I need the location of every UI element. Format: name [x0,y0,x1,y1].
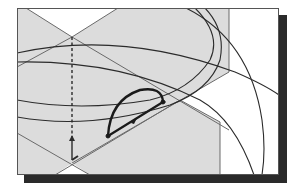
cad-sketch-diagram [0,0,302,190]
